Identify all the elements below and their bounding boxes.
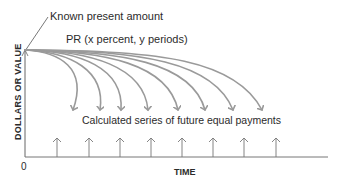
diagram-canvas <box>0 0 341 181</box>
present-value-to-annuity-diagram: Known present amount PR (x percent, y pe… <box>0 0 341 181</box>
pr-formula-label: PR (x percent, y periods) <box>66 34 188 45</box>
known-present-amount-label: Known present amount <box>50 11 163 22</box>
calculated-series-label: Calculated series of future equal paymen… <box>82 115 281 126</box>
payment-arrows <box>57 138 276 157</box>
discount-curve-3 <box>25 50 121 110</box>
discount-curve-2 <box>25 50 101 110</box>
discount-curves <box>25 50 262 110</box>
origin-zero-label: 0 <box>21 162 27 172</box>
x-axis-label: TIME <box>174 168 196 177</box>
known-amount-leader-line <box>25 17 48 51</box>
y-axis-label: DOLLARS OR VALUE <box>14 43 23 140</box>
